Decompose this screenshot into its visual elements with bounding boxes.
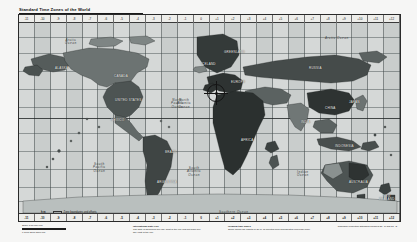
ruler-top-cell[interactable]: -6 bbox=[98, 15, 114, 23]
ruler-top-cell[interactable]: -5 bbox=[114, 15, 130, 23]
scale-bar-graphic bbox=[22, 228, 66, 230]
region-label: AFRICA bbox=[241, 139, 254, 142]
page-title: Standard Time Zones of the World bbox=[19, 7, 90, 12]
region-label: CANADA bbox=[114, 75, 128, 78]
ruler-top-cell[interactable]: +7 bbox=[305, 15, 321, 23]
region-label: RUSSIA bbox=[309, 67, 322, 70]
ruler-bottom-cell[interactable]: +6 bbox=[289, 214, 305, 222]
ruler-top-cell[interactable]: -4 bbox=[130, 15, 146, 23]
ruler-top-cell[interactable]: +5 bbox=[273, 15, 289, 23]
region-label: AUSTRALIA bbox=[349, 181, 368, 184]
ruler-top-cell[interactable]: -3 bbox=[146, 15, 162, 23]
scale-ticks: 0 1000 2000 3000 km bbox=[22, 231, 45, 234]
projection-credit: Robinson Projection Standard parallels 3… bbox=[338, 226, 397, 229]
ruler-bottom-cell[interactable]: -3 bbox=[146, 214, 162, 222]
ruler-top-cell[interactable]: +12 bbox=[384, 15, 400, 23]
region-label: BRAZIL bbox=[165, 151, 177, 154]
ruler-top-cell[interactable]: +3 bbox=[241, 15, 257, 23]
ruler-bottom-cell[interactable]: -2 bbox=[162, 214, 178, 222]
region-label: ICELAND bbox=[201, 63, 216, 66]
ruler-top-cell[interactable]: +9 bbox=[337, 15, 353, 23]
note-date-line-body: The date is advanced one day west of the… bbox=[133, 229, 203, 235]
ruler-top-cell[interactable]: +4 bbox=[257, 15, 273, 23]
note-irregular-zones-body: Some areas use offsets of 30 or 45 minut… bbox=[228, 229, 316, 232]
ruler-bottom-cell[interactable]: -5 bbox=[114, 214, 130, 222]
ruler-bottom-cell[interactable]: +10 bbox=[352, 214, 368, 222]
ocean-label: South Atlantic Ocean bbox=[187, 167, 201, 177]
region-label: CHINA bbox=[325, 107, 336, 110]
ruler-bottom-cell[interactable]: -11 bbox=[19, 214, 35, 222]
ruler-bottom[interactable]: -11-10-9-8-7-6-5-4-3-2-10+1+2+3+4+5+6+7+… bbox=[19, 213, 400, 221]
ruler-top-cell[interactable]: +2 bbox=[225, 15, 241, 23]
landmass-layer bbox=[19, 23, 400, 213]
ruler-bottom-cell[interactable]: -9 bbox=[51, 214, 67, 222]
ruler-bottom-cell[interactable]: -4 bbox=[130, 214, 146, 222]
ruler-top-cell[interactable]: -10 bbox=[35, 15, 51, 23]
ocean-label: Arctic Ocean bbox=[65, 39, 77, 46]
ruler-top-cell[interactable]: -2 bbox=[162, 15, 178, 23]
ruler-top-cell[interactable]: -7 bbox=[83, 15, 99, 23]
region-label: INDONESIA bbox=[335, 145, 354, 148]
note-date-line: International Date Line The date is adva… bbox=[133, 226, 203, 235]
ruler-top-cell[interactable]: -9 bbox=[51, 15, 67, 23]
ruler-top-cell[interactable]: +1 bbox=[210, 15, 226, 23]
crosshair-reticle[interactable] bbox=[204, 81, 228, 105]
region-label: ALASKA bbox=[55, 67, 68, 70]
region-label: GREENLAND bbox=[224, 51, 245, 54]
ruler-bottom-cell[interactable]: -6 bbox=[98, 214, 114, 222]
ruler-bottom-cell[interactable]: +7 bbox=[305, 214, 321, 222]
ruler-top-cell[interactable]: 0 bbox=[194, 15, 210, 23]
ruler-bottom-cell[interactable]: 0 bbox=[194, 214, 210, 222]
ruler-top-cell[interactable]: -1 bbox=[178, 15, 194, 23]
region-label: UNITED STATES bbox=[115, 99, 141, 102]
ruler-top-cell[interactable]: -8 bbox=[67, 15, 83, 23]
scale-label: Scale 1:80,000,000 bbox=[22, 224, 43, 227]
poster-sheet: Standard Time Zones of the World -11-10-… bbox=[0, 0, 417, 242]
reticle-center-dot bbox=[215, 92, 218, 95]
note-irregular-zones: Irregular time zones Some areas use offs… bbox=[228, 226, 316, 232]
scale-bar: Scale 1:80,000,000 0 1000 2000 3000 km bbox=[22, 224, 66, 234]
region-label: INDIA bbox=[301, 121, 310, 124]
ruler-top-cell[interactable]: +11 bbox=[368, 15, 384, 23]
region-label: NEW ZEALAND bbox=[379, 195, 395, 202]
region-label: JAPAN bbox=[349, 101, 360, 104]
screenshot-root: Standard Time Zones of the World -11-10-… bbox=[0, 0, 417, 242]
ruler-bottom-cell[interactable]: -1 bbox=[178, 214, 194, 222]
ruler-bottom-cell[interactable]: -8 bbox=[67, 214, 83, 222]
ocean-label: Arctic Ocean bbox=[325, 37, 349, 40]
region-label: MEXICO bbox=[111, 119, 124, 122]
ruler-bottom-cell[interactable]: -7 bbox=[83, 214, 99, 222]
ruler-bottom-cell[interactable]: -10 bbox=[35, 214, 51, 222]
ocean-label: North Atlantic Ocean bbox=[177, 99, 191, 109]
ruler-bottom-cell[interactable]: +9 bbox=[337, 214, 353, 222]
ruler-bottom-cell[interactable]: +8 bbox=[321, 214, 337, 222]
ruler-bottom-cell[interactable]: +3 bbox=[241, 214, 257, 222]
world-map[interactable]: -11-10-9-8-7-6-5-4-3-2-10+1+2+3+4+5+6+7+… bbox=[18, 14, 401, 222]
ruler-bottom-cell[interactable]: +2 bbox=[225, 214, 241, 222]
ruler-bottom-cell[interactable]: +12 bbox=[384, 214, 400, 222]
region-label: ARGENTINA bbox=[157, 181, 177, 184]
ocean-label: Indian Ocean bbox=[297, 171, 309, 178]
ruler-top-cell[interactable]: +6 bbox=[289, 15, 305, 23]
region-label: EUROPE bbox=[231, 81, 245, 84]
ruler-bottom-cell[interactable]: +11 bbox=[368, 214, 384, 222]
ruler-top-cell[interactable]: -11 bbox=[19, 15, 35, 23]
ruler-top-cell[interactable]: +8 bbox=[321, 15, 337, 23]
ruler-top[interactable]: -11-10-9-8-7-6-5-4-3-2-10+1+2+3+4+5+6+7+… bbox=[19, 15, 400, 23]
ocean-label: South Pacific Ocean bbox=[93, 163, 106, 173]
ruler-bottom-cell[interactable]: +5 bbox=[273, 214, 289, 222]
ruler-bottom-cell[interactable]: +4 bbox=[257, 214, 273, 222]
ruler-top-cell[interactable]: +10 bbox=[352, 15, 368, 23]
ruler-bottom-cell[interactable]: +1 bbox=[210, 214, 226, 222]
